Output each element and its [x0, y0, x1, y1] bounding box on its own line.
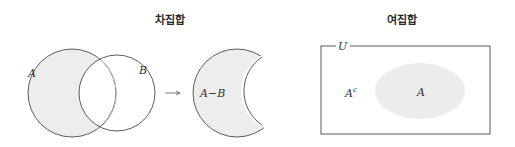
arrow-icon: [165, 91, 180, 95]
label-a-minus-b: A−B: [199, 87, 225, 100]
difference-result-shape: A−B: [193, 49, 281, 137]
label-b: B: [138, 64, 147, 77]
label-set-a: A: [416, 86, 425, 99]
set-diagrams: A B A−B U Ac A: [0, 0, 515, 147]
venn-difference: A B: [27, 49, 155, 137]
label-universe: U: [338, 40, 348, 53]
venn-complement: U Ac A: [321, 40, 490, 134]
label-a: A: [27, 67, 36, 80]
